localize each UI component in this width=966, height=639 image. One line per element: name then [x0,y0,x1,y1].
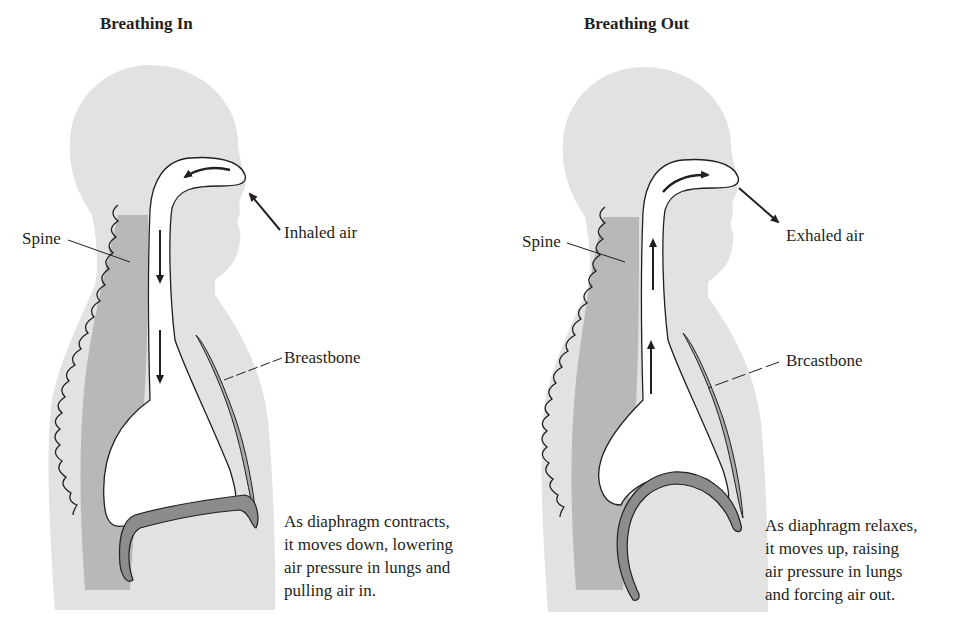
breathing-out-caption: As diaphragm relaxes, it moves up, raisi… [765,514,917,606]
breastbone-label: Brcastbone [786,351,862,371]
panel-title: Breathing Out [584,14,689,34]
caption-line: As diaphragm contracts, [284,510,453,533]
exhaled-air-pointer [739,188,778,222]
caption-line: As diaphragm relaxes, [765,514,917,537]
caption-line: it moves up, raising [765,537,917,560]
caption-line: pulling air in. [284,579,453,602]
breathing-in-caption: As diaphragm contracts, it moves down, l… [284,510,453,602]
panel-breathing-out: Breathing Out Spine Exhaled air Brcastbo… [483,0,966,639]
panel-title: Breathing In [100,14,193,34]
inhaled-air-label: Inhaled air [284,223,357,243]
caption-line: air pressure in lungs and [284,556,453,579]
panel-breathing-in: Breathing In Spine Inhaled air Breastbon… [0,0,483,639]
caption-line: and forcing air out. [765,583,917,606]
caption-line: it moves down, lowering [284,533,453,556]
breastbone-label: Breastbone [284,348,360,368]
spine-label: Spine [22,229,61,249]
caption-line: air pressure in lungs [765,560,917,583]
inhaled-air-pointer [250,194,280,230]
spine-label: Spine [522,232,561,252]
exhaled-air-label: Exhaled air [786,226,864,246]
